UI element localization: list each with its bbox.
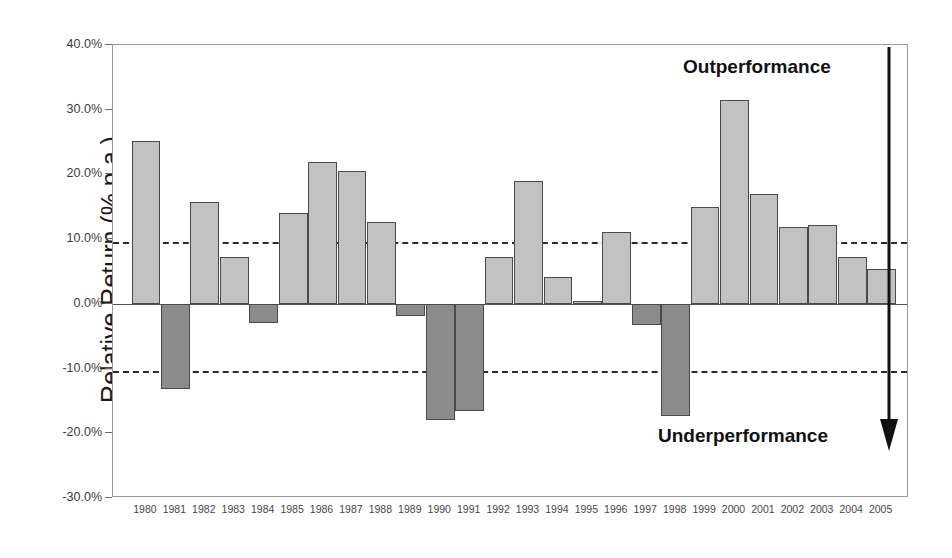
bar <box>338 171 367 304</box>
bar <box>455 304 484 411</box>
bar <box>396 304 425 316</box>
y-axis-tick-label: -20.0% <box>38 425 102 439</box>
bar <box>132 141 161 303</box>
x-axis-tick-label: 1993 <box>516 503 539 515</box>
bar <box>514 181 543 304</box>
bar <box>544 277 573 304</box>
x-axis-tick-label: 2005 <box>869 503 892 515</box>
bar <box>779 227 808 304</box>
x-axis-tick-label: 1980 <box>133 503 156 515</box>
y-axis-tick-label: 0.0% <box>38 296 102 310</box>
y-axis-tick-label: 10.0% <box>38 231 102 245</box>
x-axis-tick-label: 2000 <box>722 503 745 515</box>
x-axis-tick-label: 1986 <box>310 503 333 515</box>
bar <box>220 257 249 304</box>
bar <box>691 207 720 304</box>
bar <box>308 162 337 304</box>
x-axis-tick-label: 2004 <box>840 503 863 515</box>
x-axis-tick-label: 1984 <box>251 503 274 515</box>
x-axis-tick-label: 2002 <box>781 503 804 515</box>
y-axis-tick-label: 30.0% <box>38 102 102 116</box>
y-axis-tick-mark <box>105 109 112 110</box>
bar <box>661 304 690 416</box>
bar <box>632 304 661 325</box>
y-axis-tick-label: -10.0% <box>38 361 102 375</box>
bar <box>720 100 749 304</box>
bar <box>602 232 631 304</box>
bar <box>190 202 219 304</box>
y-axis-tick-mark <box>105 497 112 498</box>
x-axis-tick-label: 1997 <box>634 503 657 515</box>
x-axis-tick-label: 1999 <box>692 503 715 515</box>
x-axis-tick-label: 1985 <box>280 503 303 515</box>
x-axis-tick-label: 1982 <box>192 503 215 515</box>
y-axis-tick-mark <box>105 173 112 174</box>
bar <box>367 222 396 304</box>
underperformance-annotation: Underperformance <box>658 425 828 447</box>
x-axis-tick-label: 1991 <box>457 503 480 515</box>
y-axis-tick-mark <box>105 303 112 304</box>
y-axis-tick-mark <box>105 238 112 239</box>
x-axis-tick-label: 2001 <box>751 503 774 515</box>
bar <box>573 301 602 304</box>
x-axis-tick-label: 2003 <box>810 503 833 515</box>
y-axis-tick-label: 40.0% <box>38 37 102 51</box>
x-axis-tick-label: 1989 <box>398 503 421 515</box>
bar <box>249 304 278 323</box>
bar <box>485 257 514 304</box>
bar <box>426 304 455 420</box>
x-axis-tick-label: 1992 <box>486 503 509 515</box>
outperformance-annotation: Outperformance <box>683 56 831 78</box>
x-axis-tick-label: 1987 <box>339 503 362 515</box>
x-axis-tick-label: 1988 <box>369 503 392 515</box>
x-axis-tick-label: 1998 <box>663 503 686 515</box>
y-axis-tick-label: -30.0% <box>38 490 102 504</box>
performance-direction-arrow-icon <box>876 47 902 457</box>
bar <box>279 213 308 304</box>
y-axis-tick-mark <box>105 432 112 433</box>
x-axis-tick-label: 1996 <box>604 503 627 515</box>
bar <box>838 257 867 304</box>
bar <box>808 225 837 304</box>
x-axis-tick-label: 1990 <box>428 503 451 515</box>
x-axis-tick-label: 1994 <box>545 503 568 515</box>
chart-figure: Relative Return (% p.a.) 40.0%30.0%20.0%… <box>0 0 952 558</box>
bar <box>750 194 779 303</box>
bar <box>161 304 190 389</box>
x-axis-tick-label: 1995 <box>575 503 598 515</box>
y-axis-tick-label: 20.0% <box>38 166 102 180</box>
x-axis-tick-label: 1981 <box>163 503 186 515</box>
y-axis-tick-mark <box>105 368 112 369</box>
y-axis-tick-mark <box>105 44 112 45</box>
x-axis-tick-label: 1983 <box>222 503 245 515</box>
